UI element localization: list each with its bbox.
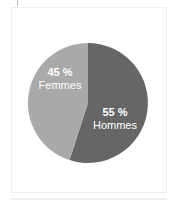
label-hommes: 55 % Hommes [88, 106, 142, 132]
femmes-name: Femmes [34, 79, 86, 92]
hommes-name: Hommes [88, 119, 142, 132]
femmes-percent: 45 % [34, 66, 86, 79]
bottom-edge-line [11, 198, 167, 200]
pie-chart [0, 0, 179, 205]
label-femmes: 45 % Femmes [34, 66, 86, 92]
hommes-percent: 55 % [88, 106, 142, 119]
